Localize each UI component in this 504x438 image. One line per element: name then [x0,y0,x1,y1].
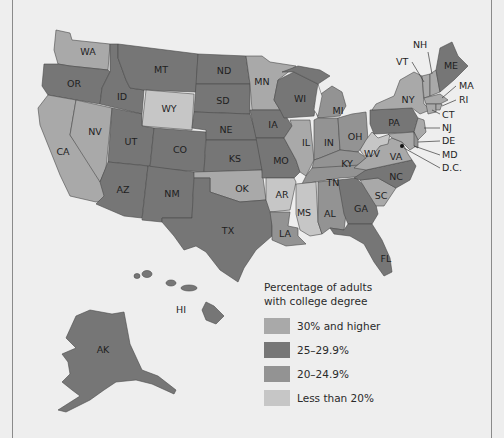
leader-de [418,141,440,142]
label-mt: MT [154,64,168,75]
label-sc: SC [375,190,388,201]
label-wa: WA [80,46,96,57]
label-ct: CT [442,109,455,120]
label-wy: WY [161,103,176,114]
label-ca: CA [56,146,70,157]
legend-item-25-29: 25–29.9% [264,341,464,358]
legend-swatch [264,366,290,382]
legend-title-line1: Percentage of adults [264,280,464,294]
label-ms: MS [297,207,311,218]
legend-label: Less than 20% [297,392,374,404]
label-az: AZ [116,184,129,195]
label-ok: OK [235,183,249,194]
label-nj: NJ [442,122,452,133]
label-sd: SD [216,95,229,106]
legend-label: 20–24.9% [297,368,349,380]
legend-title: Percentage of adults with college degree [264,280,464,308]
label-wi: WI [294,93,306,104]
label-va: VA [390,151,403,162]
label-id: ID [117,91,127,102]
label-la: LA [279,228,292,239]
label-de: DE [442,135,455,146]
dc-marker [400,144,404,148]
legend-item-30-plus: 30% and higher [264,317,464,334]
label-mi: MI [333,105,344,116]
label-md: MD [442,149,458,160]
label-fl: FL [381,253,392,264]
leader-md [414,146,440,155]
label-me: ME [444,60,458,71]
label-oh: OH [348,131,363,142]
label-nv: NV [88,126,102,137]
legend: Percentage of adults with college degree… [264,280,464,413]
label-nm: NM [164,188,179,199]
label-nc: NC [389,171,403,182]
legend-swatch [264,318,290,334]
state-hi[interactable] [134,271,224,325]
label-ga: GA [354,203,368,214]
legend-swatch [264,342,290,358]
legend-title-line2: with college degree [264,294,464,308]
legend-label: 25–29.9% [297,344,349,356]
label-ma: MA [459,80,474,91]
leader-nh [428,52,432,74]
label-vt: VT [396,56,408,67]
state-ak[interactable] [58,310,176,412]
legend-item-under-20: Less than 20% [264,389,464,406]
state-ct[interactable] [426,104,436,114]
legend-item-20-24: 20–24.9% [264,365,464,382]
label-ak: AK [97,344,110,355]
label-tx: TX [221,225,235,236]
label-ny: NY [402,94,415,105]
label-pa: PA [388,117,400,128]
label-co: CO [173,144,187,155]
label-dc: D.C. [442,162,462,173]
label-ky: KY [341,158,353,169]
label-nd: ND [217,65,231,76]
legend-label: 30% and higher [297,320,380,332]
label-in: IN [324,137,334,148]
label-mo: MO [273,155,289,166]
label-ut: UT [125,136,138,147]
label-il: IL [302,137,311,148]
label-wv: WV [364,148,380,159]
label-ia: IA [268,119,278,130]
label-mn: MN [254,76,269,87]
label-ri: RI [459,94,468,105]
label-nh: NH [413,39,427,50]
label-ne: NE [219,124,232,135]
label-hi: HI [176,304,186,315]
state-fl[interactable] [330,224,392,276]
label-tn: TN [326,177,340,188]
label-ar: AR [275,189,288,200]
label-al: AL [324,208,336,219]
legend-swatch [264,390,290,406]
label-or: OR [67,78,81,89]
label-ks: KS [229,153,241,164]
